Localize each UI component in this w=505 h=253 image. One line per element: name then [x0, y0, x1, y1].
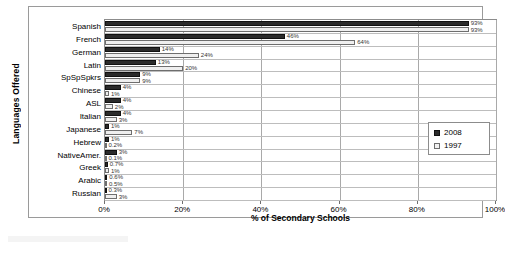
category-label: Spanish: [72, 20, 101, 33]
bar-value-1997: 7%: [134, 129, 143, 135]
bar-value-2008: 3%: [119, 149, 128, 155]
x-tick-mark: [104, 201, 105, 204]
bar-rows: Spanish93%93%French46%64%German14%24%Lat…: [105, 20, 496, 200]
plot-area: Spanish93%93%French46%64%German14%24%Lat…: [104, 19, 497, 201]
bar-2008: [105, 72, 140, 77]
category-label: Latin: [84, 59, 101, 72]
bar-2008: [105, 98, 121, 103]
legend-label-1997: 1997: [444, 141, 462, 150]
bar-value-2008: 14%: [162, 46, 174, 52]
bar-row: Chinese4%1%: [105, 84, 496, 97]
bar-value-2008: 13%: [158, 59, 170, 65]
legend-item-1997: 1997: [434, 139, 489, 152]
category-label: SpSpSpkrs: [61, 71, 101, 84]
bar-value-2008: 0.7%: [110, 161, 124, 167]
bar-row: Arabic0.6%0.5%: [105, 174, 496, 187]
bar-1997: [105, 156, 107, 161]
category-label: Italian: [80, 110, 101, 123]
bar-1997: [105, 78, 140, 83]
bar-1997: [105, 117, 117, 122]
bar-row: ASL4%2%: [105, 97, 496, 110]
category-label: Japanese: [66, 123, 101, 136]
bar-value-1997: 0.5%: [109, 181, 123, 187]
category-label: Hebrew: [73, 136, 101, 149]
bar-1997: [105, 53, 199, 58]
bar-1997: [105, 143, 107, 148]
bar-1997: [105, 91, 109, 96]
category-label: ASL: [86, 97, 101, 110]
bar-value-1997: 20%: [185, 65, 197, 71]
bar-value-1997: 0.2%: [109, 142, 123, 148]
bar-2008: [105, 85, 121, 90]
bar-row: Spanish93%93%: [105, 20, 496, 33]
legend-item-2008: 2008: [434, 126, 489, 139]
category-label: Russian: [72, 187, 101, 200]
legend-swatch-2008-icon: [434, 130, 440, 136]
bar-value-1997: 3%: [119, 117, 128, 123]
bar-2008: [105, 34, 285, 39]
bar-value-1997: 1%: [111, 168, 120, 174]
chart-frame: Spanish93%93%French46%64%German14%24%Lat…: [28, 6, 483, 218]
category-label: French: [76, 33, 101, 46]
x-tick-mark: [260, 201, 261, 204]
bar-1997: [105, 194, 117, 199]
bar-row: Greek0.7%1%: [105, 161, 496, 174]
bar-2008: [105, 188, 107, 193]
bar-2008: [105, 124, 109, 129]
bar-value-1997: 24%: [201, 52, 213, 58]
bar-value-1997: 1%: [111, 91, 120, 97]
bar-value-1997: 3%: [119, 194, 128, 200]
bar-1997: [105, 40, 355, 45]
bar-row: Italian4%3%: [105, 110, 496, 123]
y-axis-title: Languages Offered: [9, 14, 23, 194]
bar-value-2008: 1%: [111, 123, 120, 129]
bar-2008: [105, 150, 117, 155]
page-artifact: [8, 236, 128, 242]
bar-value-2008: 1%: [111, 136, 120, 142]
bar-2008: [105, 60, 156, 65]
bar-2008: [105, 162, 108, 167]
bar-value-1997: 2%: [115, 104, 124, 110]
bar-row: German14%24%: [105, 46, 496, 59]
bar-value-2008: 93%: [471, 20, 483, 26]
bar-row: Latin13%20%: [105, 59, 496, 72]
bar-value-2008: 4%: [123, 97, 132, 103]
bar-value-2008: 4%: [123, 84, 132, 90]
bar-1997: [105, 168, 109, 173]
x-tick-mark: [495, 201, 496, 204]
bar-value-2008: 0.3%: [109, 187, 123, 193]
bar-1997: [105, 27, 469, 32]
bar-1997: [105, 130, 132, 135]
bar-value-2008: 0.6%: [109, 174, 123, 180]
bar-1997: [105, 181, 107, 186]
x-tick-mark: [417, 201, 418, 204]
bar-2008: [105, 47, 160, 52]
bar-value-1997: 9%: [142, 78, 151, 84]
legend-label-2008: 2008: [444, 128, 462, 137]
bar-1997: [105, 66, 183, 71]
bar-value-1997: 0.1%: [109, 155, 123, 161]
x-tick-mark: [339, 201, 340, 204]
category-label: Arabic: [78, 174, 101, 187]
bar-row: SpSpSpkrs9%9%: [105, 71, 496, 84]
x-tick-mark: [182, 201, 183, 204]
bar-1997: [105, 104, 113, 109]
bar-row: Russian0.3%3%: [105, 187, 496, 200]
category-label: Chinese: [72, 84, 101, 97]
category-label: Greek: [79, 161, 101, 174]
bar-value-2008: 46%: [287, 33, 299, 39]
bar-2008: [105, 175, 107, 180]
bar-row: French46%64%: [105, 33, 496, 46]
bar-2008: [105, 137, 109, 142]
bar-value-1997: 64%: [357, 39, 369, 45]
chart-legend: 2008 1997: [428, 122, 490, 155]
x-axis-title: % of Secondary Schools: [104, 213, 497, 223]
bar-value-2008: 9%: [142, 71, 151, 77]
category-label: German: [72, 46, 101, 59]
gridline: [496, 20, 497, 200]
legend-swatch-1997-icon: [434, 143, 440, 149]
bar-value-1997: 93%: [471, 27, 483, 33]
bar-2008: [105, 111, 121, 116]
category-label: NativeAmer.: [57, 149, 101, 162]
